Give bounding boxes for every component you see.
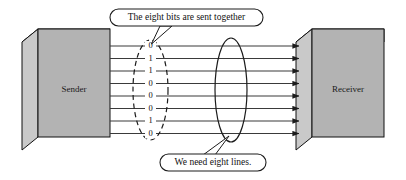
- receiver-label: Receiver: [332, 84, 364, 94]
- bit-7-text: 1: [148, 115, 152, 125]
- bit-8-text: 0: [148, 128, 152, 138]
- sender-box: Sender: [22, 29, 110, 150]
- bit-digit-8: 0: [145, 128, 156, 139]
- bit-digit-6: 0: [145, 103, 156, 114]
- bit-1-text: 0: [148, 40, 152, 50]
- bit-digit-5: 0: [145, 90, 156, 101]
- bit-2-text: 1: [148, 53, 152, 63]
- receiver-box: Receiver: [296, 29, 384, 150]
- diagram-canvas: Sender Receiver: [0, 0, 406, 180]
- bit-4-text: 0: [148, 78, 152, 88]
- line-group-ellipse: [215, 38, 247, 142]
- bit-digit-4: 0: [145, 78, 156, 89]
- parallel-transmission-diagram: Sender Receiver: [0, 0, 406, 180]
- bits-callout-tail: [152, 26, 173, 44]
- bit-digit-3: 1: [145, 65, 156, 76]
- bit-values: 0 1 1 0 0 0 1: [145, 40, 156, 138]
- transmission-lines: [110, 46, 299, 134]
- receiver-box-front-face: [312, 29, 384, 137]
- lines-callout: We need eight lines.: [160, 136, 266, 171]
- lines-callout-tail: [203, 136, 229, 155]
- bit-digit-7: 1: [145, 115, 156, 126]
- sender-label: Sender: [62, 84, 87, 94]
- lines-callout-text: We need eight lines.: [175, 157, 252, 167]
- bit-3-text: 1: [148, 65, 152, 75]
- receiver-box-side-face: [296, 29, 312, 150]
- sender-box-front-face: [38, 29, 110, 137]
- bit-5-text: 0: [148, 90, 152, 100]
- sender-box-side-face: [22, 29, 38, 150]
- bits-callout: The eight bits are sent together: [110, 9, 263, 44]
- bit-6-text: 0: [148, 103, 152, 113]
- bits-callout-text: The eight bits are sent together: [128, 12, 246, 22]
- bit-digit-2: 1: [145, 53, 156, 64]
